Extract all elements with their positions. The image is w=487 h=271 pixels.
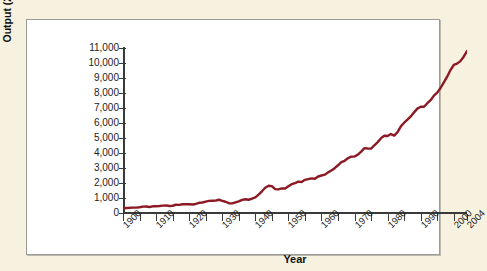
y-tick-label: 11,000 bbox=[89, 43, 119, 53]
y-tick-label: 3,000 bbox=[94, 163, 119, 173]
series-real-output bbox=[123, 51, 467, 208]
y-tick-label: 9,000 bbox=[94, 73, 119, 83]
y-tick-label: 5,000 bbox=[94, 133, 119, 143]
y-tick-label: 6,000 bbox=[94, 118, 119, 128]
y-tick-label: 4,000 bbox=[94, 148, 119, 158]
y-tick-label: 10,000 bbox=[88, 58, 119, 68]
y-axis-title: Output (2000 $, billions) bbox=[1, 0, 13, 58]
y-tick-label: 7,000 bbox=[94, 103, 119, 113]
chart-panel: Output (2000 $, billions) 01,0002,0003,0… bbox=[26, 19, 440, 255]
y-axis-labels: 01,0002,0003,0004,0005,0006,0007,0008,00… bbox=[57, 48, 119, 213]
data-line-svg bbox=[123, 48, 467, 213]
y-tick-label: 8,000 bbox=[94, 88, 119, 98]
y-tick-label: 2,000 bbox=[94, 178, 119, 188]
x-axis-title: Year bbox=[123, 253, 467, 265]
plot-area bbox=[123, 48, 467, 213]
y-tick-label: 1,000 bbox=[94, 193, 119, 203]
